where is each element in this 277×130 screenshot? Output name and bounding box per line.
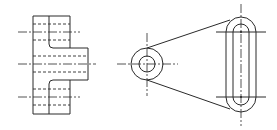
slot-top-center-mark [240,31,242,33]
side-view [18,16,96,114]
side-view-outline [33,16,88,114]
front-view [117,4,266,126]
technical-drawing [0,0,277,130]
arm-lower-edge [147,80,230,109]
arm-upper-edge [147,20,230,48]
slot-bottom-center-mark [240,96,242,98]
drawing-svg [0,0,277,130]
